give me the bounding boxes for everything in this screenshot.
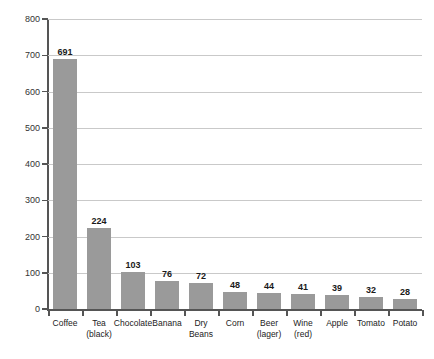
x-category-label: Wine(red) (293, 318, 312, 340)
bar-value-label: 44 (264, 281, 274, 291)
y-tick-label: 600 (0, 87, 40, 97)
bar (155, 281, 179, 309)
x-tick-mark (218, 310, 220, 316)
grid-line (48, 200, 422, 201)
x-axis-line (47, 309, 422, 311)
y-tick-label: 200 (0, 232, 40, 242)
bar-value-label: 72 (196, 271, 206, 281)
x-category-label: Potato (393, 318, 418, 329)
y-tick-label: 700 (0, 50, 40, 60)
x-category-label: Corn (226, 318, 244, 329)
x-tick-mark (184, 310, 186, 316)
x-tick-mark (252, 310, 254, 316)
grid-line (48, 19, 422, 20)
x-category-label: Tea(black) (86, 318, 112, 340)
bar-value-label: 48 (230, 280, 240, 290)
grid-line (48, 92, 422, 93)
bar (257, 293, 281, 309)
bar-value-label: 76 (162, 269, 172, 279)
bar (189, 283, 213, 309)
x-category-label: Banana (152, 318, 181, 329)
grid-line (48, 164, 422, 165)
bar-value-label: 691 (57, 47, 72, 57)
y-tick-label: 500 (0, 123, 40, 133)
grid-line (48, 55, 422, 56)
x-tick-mark (388, 310, 390, 316)
bar (325, 295, 349, 309)
x-category-label: Coffee (53, 318, 78, 329)
x-tick-mark (82, 310, 84, 316)
bar-value-label: 41 (298, 282, 308, 292)
bar (121, 272, 145, 309)
bar (223, 292, 247, 309)
y-tick-label: 0 (0, 304, 40, 314)
x-tick-mark (150, 310, 152, 316)
bar-value-label: 103 (125, 260, 140, 270)
bar-chart: AOX (mg/day) 0100200300400500600700800 6… (0, 0, 434, 359)
bar-value-label: 32 (366, 285, 376, 295)
y-tick-label: 100 (0, 268, 40, 278)
plot-area (48, 19, 422, 309)
x-category-label: Chocolate (114, 318, 152, 329)
bar (87, 228, 111, 309)
x-tick-mark (286, 310, 288, 316)
x-category-label: DryBeans (189, 318, 213, 340)
x-tick-mark (48, 310, 50, 316)
y-tick-label: 800 (0, 14, 40, 24)
bar-value-label: 28 (400, 287, 410, 297)
x-tick-mark (116, 310, 118, 316)
x-category-label: Beer(lager) (257, 318, 282, 340)
bar (53, 59, 77, 309)
y-tick-label: 400 (0, 159, 40, 169)
bar-value-label: 224 (91, 216, 106, 226)
x-tick-mark (422, 310, 424, 316)
y-axis-title: AOX (mg/day) (10, 309, 24, 359)
bar-value-label: 39 (332, 283, 342, 293)
grid-line (48, 128, 422, 129)
y-tick-label: 300 (0, 195, 40, 205)
x-category-label: Apple (326, 318, 348, 329)
bar (359, 297, 383, 309)
bar (291, 294, 315, 309)
x-category-label: Tomato (357, 318, 385, 329)
x-tick-mark (354, 310, 356, 316)
x-tick-mark (320, 310, 322, 316)
bar (393, 299, 417, 309)
